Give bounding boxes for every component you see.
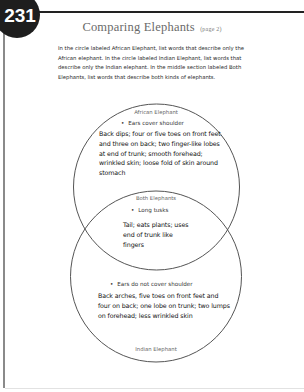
bullet-dot-icon: • — [121, 120, 124, 126]
bullet-dot-icon: • — [131, 207, 134, 213]
bullet-dot-icon: • — [110, 281, 113, 287]
african-elephant-label: African Elephant — [106, 109, 206, 115]
both-bullet: •Long tusks — [131, 207, 168, 213]
both-bullet-text: Long tusks — [138, 207, 168, 213]
african-answer: Back dips; four or five toes on front fe… — [99, 129, 227, 178]
worksheet-page: 231 Comparing Elephants (page 2) In the … — [0, 0, 304, 392]
indian-answer: Back arches, five toes on front feet and… — [98, 291, 230, 320]
both-elephants-label: Both Elephants — [106, 195, 206, 201]
indian-elephant-circle — [71, 191, 242, 362]
african-bullet-text: Ears cover shoulder — [128, 120, 184, 126]
indian-bullet: •Ears do not cover shoulder — [110, 281, 193, 287]
both-answer: Tail; eats plants; uses end of trunk lik… — [123, 220, 193, 249]
indian-bullet-text: Ears do not cover shoulder — [117, 281, 192, 287]
indian-elephant-label: Indian Elephant — [106, 346, 206, 352]
african-bullet: •Ears cover shoulder — [121, 120, 184, 126]
